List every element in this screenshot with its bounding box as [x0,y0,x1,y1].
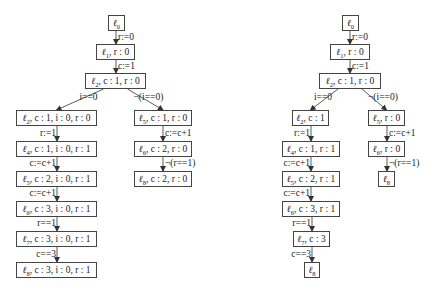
state-node: ℓ2, c : 1, r : 0 [85,73,146,89]
edge-label: c:=c+1 [165,128,192,139]
state-node: ℓ1, r : 0 [96,44,135,60]
edge-label: r:=0 [118,32,134,43]
edge-label: i==0 [79,92,97,103]
state-node: ℓ6, c : 3, i : 0, r : 1 [16,201,97,217]
edge-label: c==3 [36,249,56,260]
edge-label: ¬(i==0) [134,92,164,103]
edge-label: c:=c+1 [29,158,56,169]
state-node: ℓ8 [304,262,320,278]
state-node: ℓ2, c : 1 [292,110,329,126]
state-node: ℓ6, c : 3, r : 1 [282,201,340,217]
edge-label: r==1 [37,218,56,229]
edge-label: c:=1 [118,61,135,72]
edge-label: r==1 [292,218,311,229]
state-node: ℓ7, c : 3 [293,231,330,247]
state-node: ℓ6, c : 2, r : 0 [134,141,192,157]
edge-label: ¬(r==1) [165,158,195,169]
edge-label: c:=c+1 [283,188,310,199]
edge-label: c==3 [291,249,311,260]
state-node: ℓ4, c : 1, i : 0, r : 1 [16,141,97,157]
edge-label: c:=c+1 [283,158,310,169]
state-node: ℓ0 [108,15,125,31]
state-node: ℓ8, c : 2, r : 0 [134,171,192,187]
state-node: ℓ2, c : 1, i : 0, r : 0 [16,110,97,126]
state-node: ℓ5, c : 1, r : 0 [134,110,192,126]
state-node: ℓ2, c : 1, r : 0 [319,73,381,89]
edge-label: r:=0 [352,32,368,43]
edge-label: r:=1 [40,128,56,139]
state-node: ℓ5, c : 2, i : 0, r : 1 [16,171,97,187]
edge-label: ¬(i==0) [368,92,398,103]
state-node: ℓ5, c : 2, r : 1 [282,171,340,187]
edge-label: i==0 [314,92,332,103]
state-node: ℓ5, r : 0 [368,110,405,126]
state-node: ℓ8, c : 3, i : 0, r : 1 [16,262,97,278]
state-node: ℓ6, r : 0 [368,141,405,157]
state-node: ℓ1, r : 0 [330,44,370,60]
edge-label: ¬(r==1) [389,158,419,169]
edge-label: c:=c+1 [389,128,416,139]
state-node: ℓ0 [342,15,359,31]
edge-label: r:=1 [294,128,310,139]
state-node: ℓ4, c : 1, r : 1 [282,141,340,157]
state-node: ℓ7, c : 3, i : 0, r : 1 [16,231,97,247]
state-node: ℓ8 [378,171,395,187]
edge-label: c:=c+1 [29,188,56,199]
edge-label: c:=1 [352,61,369,72]
